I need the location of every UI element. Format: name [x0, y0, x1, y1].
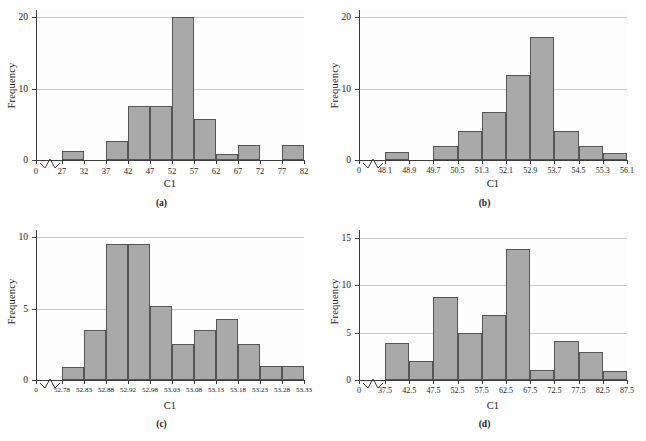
x-tick [579, 160, 580, 164]
x-tick [554, 160, 555, 164]
histogram-bar [150, 306, 172, 380]
x-axis-line [359, 380, 627, 381]
x-tick [409, 380, 410, 384]
x-tick-label: 42 [124, 166, 133, 176]
histogram-bar [172, 344, 194, 380]
x-tick [627, 160, 628, 164]
x-axis-line [359, 160, 627, 161]
x-tick [260, 160, 261, 164]
y-axis-line [36, 230, 37, 380]
histogram-bar [506, 75, 530, 160]
x-tick [282, 160, 283, 164]
x-axis-label-c: C1 [36, 400, 304, 411]
x-tick [359, 380, 360, 384]
panel-c: Frequency 0510052.7852.8352.8852.9252.98… [0, 216, 323, 436]
x-tick [409, 160, 410, 164]
x-tick [238, 160, 239, 164]
histogram-bar [458, 131, 482, 160]
x-tick [238, 380, 239, 384]
histogram-bar [433, 146, 457, 160]
x-tick [482, 380, 483, 384]
x-tick-label: 72 [256, 166, 265, 176]
y-tick-label: 5 [329, 328, 351, 338]
histogram-bar [506, 249, 530, 380]
gridline [36, 89, 304, 90]
y-axis-line [359, 10, 360, 160]
x-tick-label: 0 [34, 166, 38, 176]
x-tick [36, 380, 37, 384]
x-axis-break-icon [40, 375, 60, 386]
x-tick-label: 47 [146, 166, 155, 176]
x-tick [62, 160, 63, 164]
y-tick-label: 10 [329, 280, 351, 290]
histogram-bar [409, 361, 433, 380]
histogram-bar [216, 319, 238, 380]
x-axis-label-b: C1 [359, 178, 627, 189]
x-tick-label: 77.5 [572, 386, 586, 395]
x-tick-label: 52.98 [142, 386, 158, 394]
panel-a: Frequency 010200273237424752576267727782… [0, 0, 323, 220]
x-tick-label: 0 [357, 166, 361, 175]
y-tick [355, 17, 359, 18]
plot-area-a: 010200273237424752576267727782 [36, 10, 304, 160]
x-tick-label: 62 [212, 166, 221, 176]
x-tick [530, 380, 531, 384]
x-tick [579, 380, 580, 384]
x-tick-label: 52.5 [451, 386, 465, 395]
x-tick [304, 380, 305, 384]
gridline [359, 89, 627, 90]
panel-caption-b: (b) [323, 198, 646, 208]
y-tick [355, 285, 359, 286]
plot-area-b: 01020048.148.949.750.551.352.152.953.754… [359, 10, 627, 160]
histogram-bar [482, 112, 506, 160]
y-tick [32, 237, 36, 238]
x-tick-label: 52.88 [98, 386, 114, 394]
x-tick-label: 53.03 [164, 386, 180, 394]
x-tick [458, 380, 459, 384]
x-tick-label: 77 [278, 166, 287, 176]
histogram-bar [128, 106, 150, 160]
histogram-bar [554, 341, 578, 380]
x-tick-label: 82.5 [596, 386, 610, 395]
x-tick-label: 56.1 [620, 166, 634, 175]
histogram-bar [458, 333, 482, 380]
histogram-bar [603, 371, 627, 380]
y-tick [355, 89, 359, 90]
x-tick [172, 380, 173, 384]
x-tick [359, 160, 360, 164]
x-tick [194, 160, 195, 164]
x-tick-label: 53.08 [186, 386, 202, 394]
x-tick [106, 380, 107, 384]
x-tick [385, 380, 386, 384]
x-tick [304, 160, 305, 164]
histogram-bar [150, 106, 172, 160]
y-axis-label-d: Frequency [325, 224, 343, 379]
panel-d: Frequency 051015037.542.547.552.557.562.… [323, 216, 646, 436]
x-tick-label: 48.9 [402, 166, 416, 175]
plot-area-d: 051015037.542.547.552.557.562.567.572.57… [359, 230, 627, 380]
x-tick-label: 52.9 [523, 166, 537, 175]
x-tick-label: 53.28 [274, 386, 290, 394]
x-tick-label: 67.5 [523, 386, 537, 395]
x-tick [172, 160, 173, 164]
histogram-bar [530, 37, 554, 160]
panel-caption-d: (d) [323, 419, 646, 429]
x-tick [433, 380, 434, 384]
y-tick-label: 20 [329, 12, 351, 22]
gridline [359, 238, 627, 239]
x-tick-label: 57 [190, 166, 199, 176]
y-tick [355, 333, 359, 334]
x-tick-label: 55.3 [596, 166, 610, 175]
x-tick [106, 160, 107, 164]
x-tick-label: 53.7 [547, 166, 561, 175]
x-tick-label: 37 [102, 166, 111, 176]
x-tick-label: 67 [234, 166, 243, 176]
gridline [36, 237, 304, 238]
x-tick [482, 160, 483, 164]
x-tick [554, 380, 555, 384]
histogram-bar [579, 146, 603, 160]
histogram-bar [603, 153, 627, 160]
x-tick [458, 160, 459, 164]
x-tick [216, 160, 217, 164]
x-tick-label: 57.5 [475, 386, 489, 395]
